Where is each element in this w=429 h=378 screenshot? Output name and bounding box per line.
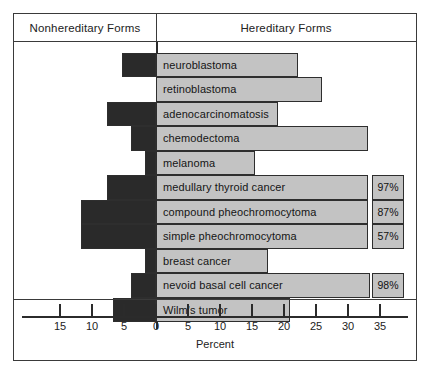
chart-row: melanoma bbox=[14, 151, 416, 176]
header-nonhereditary: Nonhereditary Forms bbox=[14, 14, 156, 41]
bar-nonhereditary bbox=[145, 249, 156, 274]
axis-line bbox=[22, 316, 408, 318]
bar-hereditary: adenocarcinomatosis bbox=[156, 102, 278, 127]
chart-row: compound pheochromocytoma87% bbox=[14, 200, 416, 225]
axis-tick bbox=[283, 304, 284, 316]
axis-tick-label: 25 bbox=[310, 320, 322, 332]
chart-frame: Nonhereditary Forms Hereditary Forms neu… bbox=[13, 13, 417, 361]
chart-row: chemodectoma bbox=[14, 126, 416, 151]
percent-badge: 57% bbox=[372, 224, 404, 249]
bar-hereditary: breast cancer bbox=[156, 249, 268, 274]
axis-tick bbox=[379, 304, 380, 316]
percent-badge: 97% bbox=[372, 175, 404, 200]
plot-area: neuroblastomaretinoblastomaadenocarcinom… bbox=[14, 42, 416, 329]
axis-tick-label: 15 bbox=[54, 320, 66, 332]
bar-category-label: medullary thyroid cancer bbox=[163, 181, 285, 193]
axis-tick-label: 30 bbox=[342, 320, 354, 332]
bar-nonhereditary bbox=[131, 126, 156, 151]
bar-hereditary: compound pheochromocytoma bbox=[156, 200, 368, 225]
chart-row: adenocarcinomatosis bbox=[14, 102, 416, 127]
chart-row: retinoblastoma bbox=[14, 77, 416, 102]
chart-row: medullary thyroid cancer97% bbox=[14, 175, 416, 200]
axis-band: 1510505101520253035 Percent bbox=[14, 299, 416, 360]
axis-tick bbox=[219, 304, 220, 316]
chart-row: simple pheochromocytoma57% bbox=[14, 224, 416, 249]
chart-header: Nonhereditary Forms Hereditary Forms bbox=[14, 14, 416, 42]
bar-nonhereditary bbox=[131, 273, 156, 298]
header-hereditary-label: Hereditary Forms bbox=[240, 22, 331, 34]
bar-hereditary: retinoblastoma bbox=[156, 77, 322, 102]
bar-nonhereditary bbox=[145, 151, 156, 176]
axis-tick bbox=[91, 304, 92, 316]
axis-tick bbox=[251, 304, 252, 316]
bar-hereditary: nevoid basal cell cancer bbox=[156, 273, 370, 298]
chart-root: Nonhereditary Forms Hereditary Forms neu… bbox=[0, 0, 429, 378]
chart-row: neuroblastoma bbox=[14, 53, 416, 78]
axis-tick-label: 5 bbox=[121, 320, 127, 332]
bar-nonhereditary bbox=[81, 224, 156, 249]
bar-nonhereditary bbox=[122, 53, 156, 78]
bar-category-label: nevoid basal cell cancer bbox=[163, 279, 283, 291]
bar-category-label: neuroblastoma bbox=[163, 59, 237, 71]
bar-category-label: melanoma bbox=[163, 157, 215, 169]
bar-nonhereditary bbox=[107, 175, 156, 200]
bar-category-label: compound pheochromocytoma bbox=[163, 206, 317, 218]
axis-tick bbox=[187, 304, 188, 316]
axis-tick-label: 10 bbox=[86, 320, 98, 332]
chart-row: nevoid basal cell cancer98% bbox=[14, 273, 416, 298]
percent-badge: 87% bbox=[372, 200, 404, 225]
axis-tick bbox=[155, 304, 156, 316]
axis-tick bbox=[123, 304, 124, 316]
bar-hereditary: simple pheochromocytoma bbox=[156, 224, 368, 249]
axis-tick-label: 10 bbox=[214, 320, 226, 332]
bar-hereditary: chemodectoma bbox=[156, 126, 368, 151]
axis-title: Percent bbox=[14, 338, 416, 350]
bar-nonhereditary bbox=[81, 200, 156, 225]
bar-category-label: breast cancer bbox=[163, 255, 231, 267]
axis-tick bbox=[315, 304, 316, 316]
axis-tick-label: 5 bbox=[185, 320, 191, 332]
bar-category-label: simple pheochromocytoma bbox=[163, 230, 297, 242]
axis-tick-label: 15 bbox=[246, 320, 258, 332]
bar-nonhereditary bbox=[107, 102, 156, 127]
header-nonhereditary-label: Nonhereditary Forms bbox=[30, 22, 141, 34]
bar-hereditary: neuroblastoma bbox=[156, 53, 298, 78]
axis-tick bbox=[59, 304, 60, 316]
bar-category-label: chemodectoma bbox=[163, 132, 239, 144]
axis-tick-label: 20 bbox=[278, 320, 290, 332]
axis-tick-label: 35 bbox=[374, 320, 386, 332]
percent-badge: 98% bbox=[372, 273, 404, 298]
bar-hereditary: medullary thyroid cancer bbox=[156, 175, 368, 200]
axis-tick-label: 0 bbox=[153, 320, 159, 332]
bar-category-label: adenocarcinomatosis bbox=[163, 108, 269, 120]
bar-hereditary: melanoma bbox=[156, 151, 255, 176]
chart-row: breast cancer bbox=[14, 249, 416, 274]
header-hereditary: Hereditary Forms bbox=[156, 14, 416, 41]
axis-tick bbox=[347, 304, 348, 316]
bar-category-label: retinoblastoma bbox=[163, 83, 237, 95]
